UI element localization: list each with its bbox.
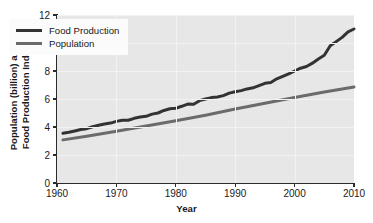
y-tick-mark [53,98,57,99]
y-tick-label: 6 [44,94,50,105]
x-tick-label: 1990 [224,188,246,199]
gridline-horizontal [57,127,354,128]
legend-label-food-production: Food Production [49,25,119,36]
x-tick-mark [353,183,354,187]
x-tick-mark [294,183,295,187]
series-line-population [63,87,354,140]
legend-swatch-population [16,42,42,45]
y-tick-mark [53,126,57,127]
chart-legend: Food Production Population [9,19,128,55]
x-axis-title: Year [0,203,373,214]
y-tick-mark [53,154,57,155]
x-tick-mark [116,183,117,187]
y-tick-label: 2 [44,150,50,161]
y-tick-mark [53,14,57,15]
gridline-vertical [235,15,236,183]
legend-item-population: Population [16,37,119,50]
x-tick-label: 1980 [165,188,187,199]
legend-item-food-production: Food Production [16,24,119,37]
gridline-horizontal [57,71,354,72]
y-tick-mark [53,70,57,71]
x-tick-mark [175,183,176,187]
gridline-horizontal [57,99,354,100]
x-tick-label: 2010 [343,188,365,199]
y-tick-label: 4 [44,122,50,133]
y-tick-label: 0 [44,178,50,189]
legend-label-population: Population [49,38,94,49]
gridline-horizontal [57,15,354,16]
x-tick-mark [235,183,236,187]
x-tick-label: 1960 [46,188,68,199]
x-tick-label: 1970 [105,188,127,199]
gridline-vertical [176,15,177,183]
x-tick-label: 2000 [283,188,305,199]
gridline-horizontal [57,155,354,156]
legend-swatch-food-production [16,29,42,32]
gridline-vertical [295,15,296,183]
x-tick-mark [56,183,57,187]
y-tick-label: 8 [44,66,50,77]
chart-figure: Population (billion) and Food Production… [0,0,373,223]
